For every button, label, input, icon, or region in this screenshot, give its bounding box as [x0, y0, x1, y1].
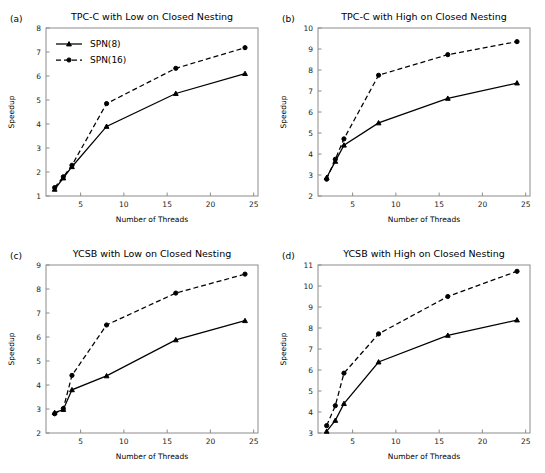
data-point-marker: [333, 157, 337, 161]
data-point-marker: [173, 337, 178, 341]
data-point-marker: [325, 177, 329, 181]
x-tick-label: 10: [391, 437, 401, 446]
y-tick-label: 6: [308, 366, 313, 375]
series-line-spn16: [55, 48, 245, 188]
chart-panel-c: (c)YCSB with Low on Closed Nesting234567…: [0, 237, 272, 473]
series-line-spn8: [327, 83, 517, 178]
x-tick-label: 20: [206, 437, 216, 446]
chart-panel-a: (a)TPC-C with Low on Closed Nesting12345…: [0, 0, 272, 236]
data-point-marker: [53, 186, 57, 190]
panel-letter: (b): [282, 14, 295, 24]
y-tick-label: 7: [308, 87, 313, 96]
x-tick-label: 20: [478, 437, 488, 446]
data-point-marker: [174, 291, 178, 295]
series-line-spn8: [55, 74, 245, 190]
x-tick-label: 5: [78, 437, 83, 446]
data-point-marker: [333, 418, 338, 422]
data-point-marker: [515, 318, 520, 322]
x-tick-label: 15: [162, 437, 172, 446]
y-tick-label: 6: [36, 72, 41, 81]
legend-label: SPN(16): [90, 55, 126, 65]
x-tick-label: 10: [119, 200, 129, 209]
data-point-marker: [174, 66, 178, 70]
data-point-marker: [243, 71, 248, 75]
x-tick-label: 15: [162, 200, 172, 209]
y-axis-label: Speedup: [279, 332, 288, 365]
y-tick-label: 8: [308, 324, 313, 333]
y-tick-label: 3: [308, 171, 313, 180]
legend-label: SPN(8): [90, 39, 121, 49]
data-point-marker: [243, 318, 248, 322]
data-point-marker: [446, 294, 450, 298]
y-tick-label: 11: [303, 261, 313, 270]
data-point-marker: [515, 40, 519, 44]
data-point-marker: [104, 323, 108, 327]
data-point-marker: [61, 406, 65, 410]
series-line-spn16: [55, 274, 245, 414]
plot-frame: [46, 28, 258, 196]
speedup-figure: (a)TPC-C with Low on Closed Nesting12345…: [0, 0, 545, 473]
chart-panel-d: (d)YCSB with High on Closed Nesting34567…: [272, 237, 544, 473]
data-point-marker: [70, 373, 74, 377]
panel-letter: (d): [282, 251, 295, 261]
data-point-marker: [376, 121, 381, 125]
y-tick-label: 5: [308, 387, 313, 396]
x-tick-label: 5: [350, 437, 355, 446]
panel-letter: (c): [10, 251, 22, 261]
y-tick-label: 2: [308, 192, 313, 201]
data-point-marker: [53, 412, 57, 416]
data-point-marker: [325, 424, 329, 428]
panel-title: YCSB with High on Closed Nesting: [342, 248, 505, 259]
y-tick-label: 8: [36, 285, 41, 294]
panel-title: TPC-C with High on Closed Nesting: [340, 11, 506, 22]
y-tick-label: 4: [308, 408, 313, 417]
data-point-marker: [376, 73, 380, 77]
x-tick-label: 10: [119, 437, 129, 446]
y-tick-label: 7: [36, 309, 41, 318]
x-tick-label: 5: [350, 200, 355, 209]
x-tick-label: 25: [249, 200, 259, 209]
y-axis-label: Speedup: [7, 95, 16, 128]
data-point-marker: [243, 46, 247, 50]
y-tick-label: 9: [308, 303, 313, 312]
x-axis-label: Number of Threads: [116, 215, 188, 224]
plot-frame: [318, 265, 530, 433]
x-tick-label: 10: [391, 200, 401, 209]
chart-panel-b: (b)TPC-C with High on Closed Nesting2345…: [272, 0, 544, 236]
y-axis-label: Speedup: [279, 95, 288, 128]
y-tick-label: 7: [36, 48, 41, 57]
y-tick-label: 9: [36, 261, 41, 270]
data-point-marker: [446, 53, 450, 57]
data-point-marker: [173, 91, 178, 95]
y-tick-label: 6: [308, 108, 313, 117]
series-line-spn16: [327, 42, 517, 180]
data-point-marker: [445, 333, 450, 337]
x-tick-label: 20: [478, 200, 488, 209]
y-axis-label: Speedup: [7, 332, 16, 365]
y-tick-label: 8: [36, 24, 41, 33]
panel-title: YCSB with Low on Closed Nesting: [72, 248, 232, 259]
plot-frame: [318, 28, 530, 196]
data-point-marker: [342, 371, 346, 375]
series-line-spn16: [327, 271, 517, 425]
y-tick-label: 4: [308, 150, 313, 159]
y-tick-label: 10: [303, 282, 313, 291]
legend-swatch-marker: [67, 58, 71, 62]
x-axis-label: Number of Threads: [388, 215, 460, 224]
y-tick-label: 8: [308, 66, 313, 75]
data-point-marker: [515, 269, 519, 273]
y-tick-label: 6: [36, 333, 41, 342]
y-tick-label: 5: [36, 357, 41, 366]
y-tick-label: 4: [36, 120, 41, 129]
y-tick-label: 2: [36, 429, 41, 438]
data-point-marker: [342, 137, 346, 141]
y-tick-label: 4: [36, 381, 41, 390]
data-point-marker: [243, 272, 247, 276]
panel-letter: (a): [10, 14, 23, 24]
y-tick-label: 3: [36, 405, 41, 414]
x-tick-label: 15: [434, 200, 444, 209]
data-point-marker: [70, 163, 74, 167]
legend: SPN(8)SPN(16): [56, 39, 126, 65]
y-tick-label: 3: [308, 429, 313, 438]
data-point-marker: [104, 102, 108, 106]
